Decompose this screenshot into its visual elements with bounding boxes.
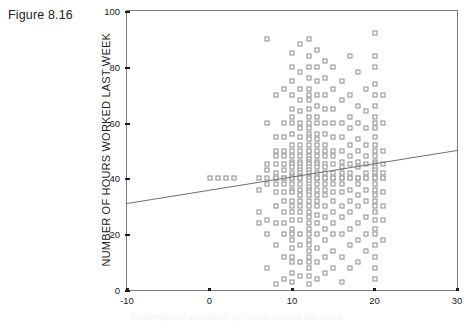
x-tick-label: 0 [207,295,212,306]
y-tick-mark [125,67,130,69]
y-tick-mark [125,11,130,13]
x-tick-label: -10 [120,295,134,306]
x-tick-label: 20 [369,295,380,306]
y-tick-mark [125,178,130,180]
y-tick-mark [125,123,130,125]
x-tick-mark [373,288,376,291]
x-tick-label: 30 [452,295,463,306]
figure-title: Figure 8.16 [8,8,73,22]
plot-area: 020406080100-100102030 [126,10,458,291]
y-tick-label: 60 [109,117,120,128]
x-tick-mark [126,288,129,291]
regression-line [127,11,457,290]
y-tick-label: 20 [109,229,120,240]
x-tick-mark [291,288,294,291]
x-tick-label: 10 [287,295,298,306]
y-tick-mark [125,234,130,236]
figure-caption-cutoff: Scatterplot of education by hours worked… [130,312,343,322]
x-tick-mark [456,288,459,291]
y-tick-label: 80 [109,61,120,72]
y-tick-label: 0 [115,285,120,296]
y-tick-label: 100 [104,6,120,17]
x-tick-mark [208,288,211,291]
y-tick-label: 40 [109,173,120,184]
